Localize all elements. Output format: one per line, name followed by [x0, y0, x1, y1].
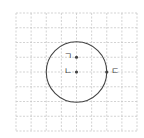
point-3 — [105, 70, 108, 73]
point-label-digeut: ㄷ — [111, 67, 119, 76]
point-1 — [75, 56, 78, 59]
grid-circle-diagram — [0, 0, 144, 138]
point-label-giyeok: ㄱ — [64, 52, 72, 61]
point-2 — [75, 70, 78, 73]
point-label-nieun: ㄴ — [64, 67, 72, 76]
